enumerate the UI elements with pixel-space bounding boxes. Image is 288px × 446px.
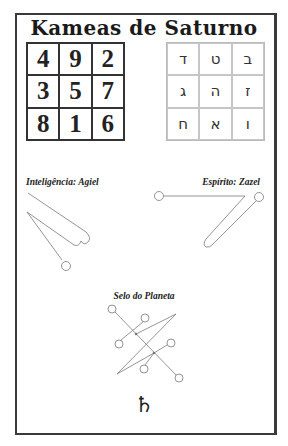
saturn-symbol-icon: ♄ bbox=[0, 392, 288, 417]
zazel-sigil-icon bbox=[155, 192, 264, 248]
sigils-drawing bbox=[0, 0, 288, 446]
planet-seal-icon bbox=[108, 305, 183, 382]
agiel-sigil-icon bbox=[27, 193, 90, 271]
